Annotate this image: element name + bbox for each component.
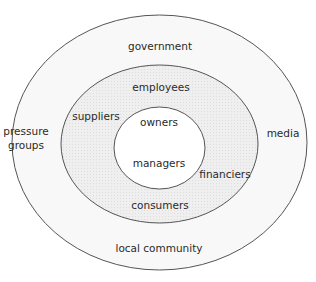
label-local-community: local community — [115, 242, 202, 255]
label-managers: managers — [133, 157, 186, 170]
label-suppliers: suppliers — [72, 110, 120, 123]
label-owners: owners — [140, 116, 178, 129]
label-government: government — [128, 40, 192, 53]
label-financiers: financiers — [199, 168, 250, 181]
label-consumers: consumers — [131, 199, 188, 212]
label-media: media — [267, 127, 300, 140]
label-employees: employees — [132, 81, 189, 94]
stakeholder-diagram: government pressure groups media local c… — [0, 0, 316, 282]
label-pressure: pressure — [3, 125, 48, 138]
label-groups: groups — [8, 139, 44, 152]
